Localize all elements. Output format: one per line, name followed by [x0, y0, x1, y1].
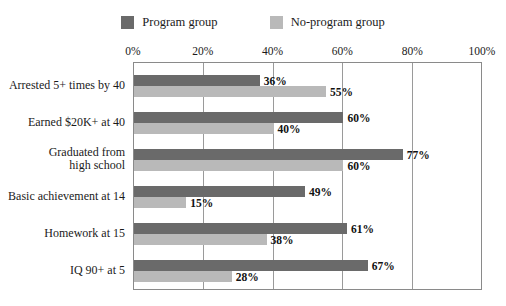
category-label-5: IQ 90+ at 5 [70, 264, 125, 277]
bar-2-1 [134, 160, 343, 171]
chart-legend: Program groupNo-program group [0, 12, 506, 32]
x-tick-label-1: 20% [192, 44, 213, 58]
x-axis-tick-labels: 0%20%40%60%80%100% [0, 44, 506, 58]
x-tick-label-3: 60% [332, 44, 353, 58]
bar-value-label-5-1: 28% [236, 272, 259, 283]
x-tick-label-0: 0% [125, 44, 140, 58]
bar-0-1 [134, 86, 326, 97]
bar-value-label-1-0: 60% [347, 113, 370, 124]
bar-4-0 [134, 223, 347, 234]
bar-value-label-2-0: 77% [407, 150, 430, 161]
bar-value-label-5-0: 67% [372, 261, 395, 272]
bar-4-1 [134, 234, 267, 245]
bar-1-0 [134, 112, 343, 123]
plot-area: 36%55%60%40%77%60%49%15%61%38%67%28% [133, 62, 482, 290]
bar-value-label-4-1: 38% [271, 235, 294, 246]
bar-value-label-4-0: 61% [351, 224, 374, 235]
category-label-2: Graduated from high school [49, 146, 125, 172]
x-tick-label-5: 100% [469, 44, 496, 58]
legend-label-1: No-program group [291, 16, 385, 29]
legend-label-0: Program group [142, 16, 217, 29]
bar-value-label-3-0: 49% [309, 187, 332, 198]
legend-swatch-program-group [121, 16, 134, 29]
bar-1-1 [134, 123, 274, 134]
bar-0-0 [134, 75, 260, 86]
category-label-1: Earned $20K+ at 40 [28, 116, 125, 129]
category-label-0: Arrested 5+ times by 40 [9, 79, 125, 92]
bar-value-label-2-1: 60% [347, 161, 370, 172]
bar-3-1 [134, 197, 186, 208]
bar-5-1 [134, 271, 232, 282]
bar-3-0 [134, 186, 305, 197]
y-axis-category-labels: Arrested 5+ times by 40Earned $20K+ at 4… [0, 62, 131, 290]
x-tick-label-4: 80% [402, 44, 423, 58]
bar-5-0 [134, 260, 368, 271]
bar-value-label-3-1: 15% [190, 198, 213, 209]
x-tick-label-2: 40% [262, 44, 283, 58]
gridline-80 [412, 63, 413, 289]
legend-swatch-no-program-group [270, 16, 283, 29]
bar-value-label-0-1: 55% [330, 87, 353, 98]
bar-chart: Program groupNo-program group 0%20%40%60… [0, 0, 506, 306]
category-label-4: Homework at 15 [44, 227, 125, 240]
legend-item-0: Program group [121, 16, 217, 29]
category-label-3: Basic achievement at 14 [8, 190, 125, 203]
legend-item-1: No-program group [270, 16, 385, 29]
bar-value-label-1-1: 40% [278, 124, 301, 135]
bar-2-0 [134, 149, 403, 160]
